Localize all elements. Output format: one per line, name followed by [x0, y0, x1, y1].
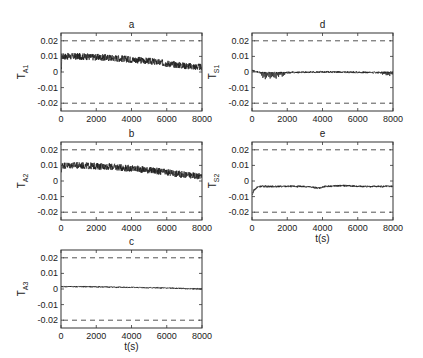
y-tick-label: -0.01: [37, 300, 58, 310]
x-tick-label: 6000: [157, 331, 177, 341]
y-tick-label: 0.01: [40, 268, 58, 278]
y-tick-label: -0.02: [228, 207, 249, 217]
x-tick-label: 0: [58, 331, 63, 341]
x-tick-label: 4000: [121, 223, 141, 233]
panel-e: e0.020.010-0.01-0.0202000400060008000TS2…: [207, 128, 403, 244]
y-tick-label: 0.02: [40, 253, 58, 263]
y-tick-label: -0.01: [228, 83, 249, 93]
data-trace: [252, 185, 393, 195]
y-axis-label: TS2: [207, 174, 220, 189]
x-tick-label: 4000: [121, 114, 141, 124]
y-tick-label: -0.02: [37, 98, 58, 108]
y-tick-label: 0: [53, 67, 58, 77]
x-tick-label: 4000: [312, 223, 332, 233]
figure: a0.020.010-0.01-0.0202000400060008000TA1…: [0, 0, 423, 358]
y-tick-label: 0: [244, 67, 249, 77]
y-tick-label: 0.01: [231, 51, 249, 61]
y-tick-label: 0.02: [40, 145, 58, 155]
y-tick-label: 0.01: [40, 51, 58, 61]
y-axis-label: TA2: [16, 174, 29, 189]
data-trace: [61, 53, 202, 72]
axes-frame: [61, 33, 202, 111]
axes-frame: [252, 142, 393, 220]
x-tick-label: 8000: [383, 223, 403, 233]
y-tick-label: -0.01: [37, 192, 58, 202]
subplot-title: b: [129, 128, 135, 139]
x-tick-label: 8000: [192, 223, 212, 233]
x-tick-label: 6000: [348, 223, 368, 233]
x-tick-label: 0: [249, 223, 254, 233]
subplot-title: e: [320, 128, 326, 139]
axes-frame: [61, 250, 202, 328]
data-trace: [252, 70, 393, 80]
y-axis-label: TS1: [207, 65, 220, 80]
panel-a: a0.020.010-0.01-0.0202000400060008000TA1: [16, 19, 212, 124]
x-tick-label: 4000: [121, 331, 141, 341]
x-tick-label: 6000: [157, 223, 177, 233]
x-tick-label: 4000: [312, 114, 332, 124]
y-tick-label: -0.01: [37, 83, 58, 93]
subplot-title: d: [320, 19, 326, 30]
x-tick-label: 2000: [86, 223, 106, 233]
panel-c: c0.020.010-0.01-0.0202000400060008000TA3…: [16, 236, 212, 352]
y-tick-label: -0.02: [37, 207, 58, 217]
x-tick-label: 2000: [277, 114, 297, 124]
x-tick-label: 8000: [192, 114, 212, 124]
x-tick-label: 2000: [277, 223, 297, 233]
y-axis-label: TA3: [16, 282, 29, 297]
subplot-title: a: [129, 19, 135, 30]
y-tick-label: 0: [53, 176, 58, 186]
x-tick-label: 0: [58, 223, 63, 233]
x-tick-label: 6000: [348, 114, 368, 124]
x-tick-label: 8000: [192, 331, 212, 341]
y-tick-label: -0.02: [228, 98, 249, 108]
x-tick-label: 0: [249, 114, 254, 124]
y-tick-label: -0.02: [37, 315, 58, 325]
panel-d: d0.020.010-0.01-0.0202000400060008000TS1: [207, 19, 403, 124]
y-tick-label: 0.01: [231, 160, 249, 170]
y-tick-label: 0: [244, 176, 249, 186]
panel-b: b0.020.010-0.01-0.0202000400060008000TA2: [16, 128, 212, 233]
x-axis-label: t(s): [124, 341, 138, 352]
y-tick-label: 0.02: [40, 36, 58, 46]
y-tick-label: 0.02: [231, 36, 249, 46]
data-trace: [61, 286, 202, 290]
x-tick-label: 2000: [86, 114, 106, 124]
x-tick-label: 6000: [157, 114, 177, 124]
data-trace: [61, 162, 202, 179]
y-tick-label: -0.01: [228, 192, 249, 202]
y-tick-label: 0.02: [231, 145, 249, 155]
x-axis-label: t(s): [315, 233, 329, 244]
x-tick-label: 8000: [383, 114, 403, 124]
y-axis-label: TA1: [16, 65, 29, 80]
y-tick-label: 0.01: [40, 160, 58, 170]
axes-frame: [61, 142, 202, 220]
y-tick-label: 0: [53, 284, 58, 294]
x-tick-label: 0: [58, 114, 63, 124]
subplot-title: c: [129, 236, 134, 247]
x-tick-label: 2000: [86, 331, 106, 341]
